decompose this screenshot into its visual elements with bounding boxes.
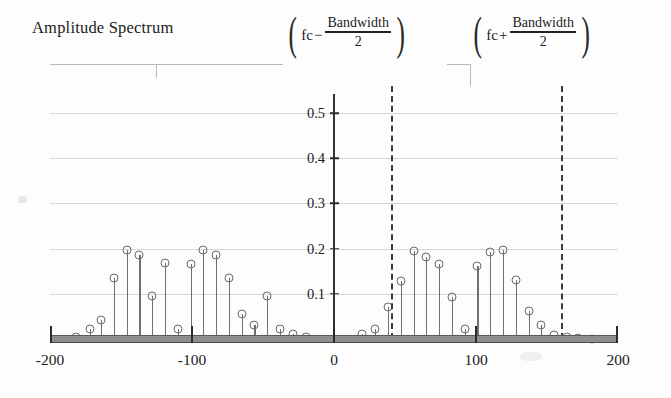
- paren-close-icon: ): [396, 16, 404, 52]
- stem-line: [114, 278, 115, 339]
- annotation-lower-numerator: Bandwidth: [325, 16, 390, 32]
- y-tick-label: 0.4: [307, 150, 325, 167]
- amplitude-spectrum-figure: Amplitude Spectrum ( fc − Bandwidth 2 ) …: [0, 0, 671, 398]
- annotation-upper-fc: fc: [486, 27, 498, 44]
- data-point-marker: [97, 316, 106, 325]
- y-axis: [333, 94, 335, 343]
- y-tick-label: 0.3: [307, 195, 325, 212]
- data-point-marker: [173, 325, 182, 334]
- y-tick-label: 0.1: [307, 285, 325, 302]
- data-point-marker: [109, 274, 118, 283]
- stem-line: [414, 251, 415, 339]
- data-point-marker: [161, 259, 170, 268]
- paren-open-icon: (: [473, 16, 481, 52]
- stem-line: [477, 266, 478, 339]
- stem-line: [127, 250, 128, 339]
- stem-line: [439, 264, 440, 339]
- stem-line: [516, 280, 517, 339]
- stem-line: [503, 250, 504, 339]
- data-point-marker: [473, 261, 482, 270]
- data-point-marker: [511, 276, 520, 285]
- stem-line: [139, 255, 140, 339]
- stem-line: [165, 263, 166, 339]
- annotation-lower-denominator: 2: [355, 33, 362, 50]
- stem-line: [267, 296, 268, 339]
- data-point-marker: [409, 246, 418, 255]
- x-tick-label: -100: [178, 351, 206, 369]
- x-tick-label: 0: [330, 351, 338, 369]
- paren-open-icon: (: [288, 16, 296, 52]
- y-tick-label: 0.5: [307, 105, 325, 122]
- data-point-marker: [237, 310, 246, 319]
- x-tick-mark: [475, 326, 477, 343]
- stem-line: [401, 281, 402, 339]
- x-tick-label: -200: [36, 351, 64, 369]
- data-point-marker: [435, 260, 444, 269]
- stem-line: [203, 250, 204, 339]
- annotation-upper-numerator: Bandwidth: [510, 16, 575, 32]
- x-tick-mark: [191, 326, 193, 343]
- scan-artifact: [520, 352, 542, 361]
- stem-line: [490, 252, 491, 339]
- annotation-lower-fraction: Bandwidth 2: [325, 16, 390, 50]
- annotation-upper-fraction: Bandwidth 2: [510, 16, 575, 50]
- annotation-upper-operator: +: [499, 27, 507, 44]
- data-point-marker: [371, 325, 380, 334]
- paren-close-icon: ): [581, 16, 589, 52]
- stem-line: [452, 297, 453, 339]
- stem-line: [229, 278, 230, 339]
- stem-line: [426, 257, 427, 339]
- data-point-marker: [276, 325, 285, 334]
- y-tick-mark: [330, 293, 339, 295]
- data-point-marker: [460, 325, 469, 334]
- data-point-marker: [537, 321, 546, 330]
- cutoff-line: [391, 86, 393, 339]
- data-point-marker: [422, 252, 431, 261]
- data-point-marker: [186, 260, 195, 269]
- y-tick-mark: [330, 203, 339, 205]
- data-point-marker: [447, 293, 456, 302]
- data-point-marker: [498, 245, 507, 254]
- annotation-lower-operator: −: [314, 27, 322, 44]
- y-tick-mark: [330, 112, 339, 114]
- x-tick-mark: [333, 326, 335, 343]
- data-point-marker: [224, 274, 233, 283]
- y-tick-mark: [330, 248, 339, 250]
- data-point-marker: [486, 248, 495, 257]
- y-tick-label: 0.2: [307, 240, 325, 257]
- x-tick-mark: [50, 326, 52, 343]
- annotation-lower-cutoff: ( fc − Bandwidth 2 ): [285, 16, 408, 52]
- annotation-lower-fc: fc: [301, 27, 313, 44]
- data-point-marker: [250, 321, 259, 330]
- plot-area: 0.10.20.30.40.5 -200-1000100200: [50, 64, 618, 343]
- x-tick-label: 100: [464, 351, 487, 369]
- data-point-marker: [263, 292, 272, 301]
- scan-artifact: [18, 196, 27, 203]
- annotation-upper-cutoff: ( fc + Bandwidth 2 ): [470, 16, 593, 52]
- data-point-marker: [122, 245, 131, 254]
- x-tick-label: 200: [606, 351, 629, 369]
- data-point-marker: [199, 245, 208, 254]
- data-point-marker: [524, 306, 533, 315]
- data-point-marker: [212, 251, 221, 260]
- y-tick-mark: [330, 158, 339, 160]
- data-point-marker: [135, 251, 144, 260]
- page-title: Amplitude Spectrum: [32, 18, 174, 38]
- data-point-marker: [148, 292, 157, 301]
- data-point-marker: [85, 325, 94, 334]
- x-tick-mark: [616, 326, 618, 343]
- data-point-marker: [396, 277, 405, 286]
- stem-line: [216, 255, 217, 339]
- annotation-upper-denominator: 2: [540, 33, 547, 50]
- cutoff-line: [561, 86, 563, 339]
- stem-line: [152, 296, 153, 339]
